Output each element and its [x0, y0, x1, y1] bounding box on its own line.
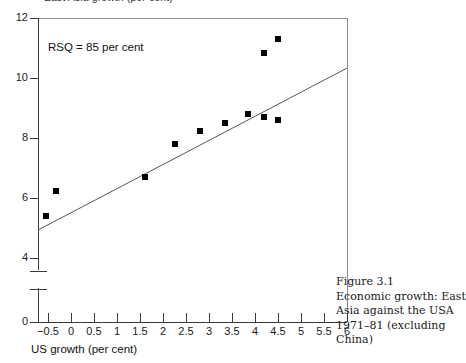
x-tick-2 [163, 313, 164, 322]
x-tick-3 [209, 313, 210, 322]
data-point [142, 174, 148, 180]
y-tick-label-6: 6 [6, 191, 28, 203]
x-tick-label-1-5: 1.5 [132, 325, 147, 337]
x-tick-0 [71, 313, 72, 322]
x-tick-label-2-5: 2.5 [178, 325, 193, 337]
x-tick-label-0-5: 0.5 [86, 325, 101, 337]
y-tick-0 [30, 322, 39, 323]
data-point [222, 120, 228, 126]
x-tick-5 [301, 313, 302, 322]
caption-line-1: Economic growth: East [336, 290, 460, 305]
data-point [197, 128, 203, 134]
y-tick-12 [30, 18, 39, 19]
x-tick-label-4: 4 [252, 325, 258, 337]
x-tick-label-0: 0 [68, 325, 74, 337]
caption-line-4: China) [336, 333, 460, 348]
y-tick-10 [30, 78, 39, 79]
data-point [53, 188, 59, 194]
x-tick-4 [255, 313, 256, 322]
data-point [245, 111, 251, 117]
x-tick-1-5 [140, 313, 141, 322]
x-tick-label-2: 2 [160, 325, 166, 337]
plot-frame-top [38, 18, 347, 19]
figure-caption: Figure 3.1 Economic growth: East Asia ag… [336, 275, 460, 348]
plot-frame-right [347, 18, 348, 313]
data-point [261, 50, 267, 56]
y-axis-break-upper [30, 271, 47, 272]
x-tick-label-4-5: 4.5 [270, 325, 285, 337]
y-tick-label-0: 0 [6, 315, 28, 327]
x-tick-1 [117, 313, 118, 322]
y-tick-6 [30, 198, 39, 199]
y-tick-4 [30, 258, 39, 259]
data-point [275, 117, 281, 123]
caption-line-3: 1971–81 (excluding [336, 319, 460, 334]
data-point [172, 141, 178, 147]
x-tick-label-3: 3 [206, 325, 212, 337]
x-tick-5-5 [324, 313, 325, 322]
y-axis-line [38, 18, 39, 270]
y-tick-label-4: 4 [6, 251, 28, 263]
y-tick-label-8: 8 [6, 131, 28, 143]
x-tick-label-5: 5 [298, 325, 304, 337]
y-tick-label-10: 10 [6, 71, 28, 83]
x-tick-4-5 [278, 313, 279, 322]
y-axis-break-lower [30, 289, 47, 290]
x-tick-label-3-5: 3.5 [224, 325, 239, 337]
x-tick-3-5 [232, 313, 233, 322]
y-tick-8 [30, 138, 39, 139]
x-tick-label-neg0-5: −0.5 [37, 325, 59, 337]
x-tick-2-5 [186, 313, 187, 322]
x-axis-line [38, 322, 347, 323]
x-tick-0-5 [94, 313, 95, 322]
x-axis-title: US growth (per cent) [31, 343, 137, 355]
y-tick-label-12: 12 [6, 11, 28, 23]
caption-line-2: Asia against the USA [336, 304, 460, 319]
data-point [43, 213, 49, 219]
x-tick-label-1: 1 [114, 325, 120, 337]
data-point [261, 114, 267, 120]
x-tick-neg0-5 [48, 313, 49, 322]
y-axis-line-lower [38, 288, 39, 322]
rsq-annotation: RSQ = 85 per cent [48, 41, 144, 53]
x-tick-label-5-5: 5.5 [316, 325, 331, 337]
y-axis-title: East Asia growth (per cent) [44, 0, 173, 3]
caption-figure-number: Figure 3.1 [336, 275, 460, 290]
data-point [275, 36, 281, 42]
